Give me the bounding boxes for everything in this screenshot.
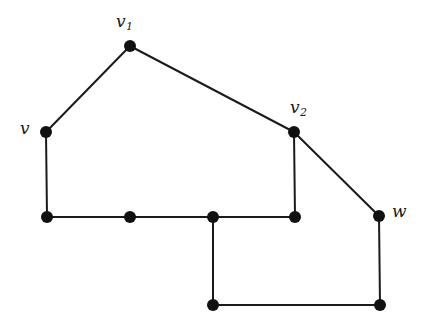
vertex-label-subscript: 2 <box>300 106 307 119</box>
graph-edge <box>130 46 294 132</box>
vertex-label-base: v <box>116 11 126 31</box>
vertex-label-w: w <box>392 203 407 220</box>
graph-edge <box>294 132 379 216</box>
graph-vertex <box>41 211 53 223</box>
graph-vertex <box>207 211 219 223</box>
graph-vertex <box>124 211 136 223</box>
graph-vertex <box>289 211 301 223</box>
vertex-label-v1: v1 <box>116 13 133 30</box>
graph-vertex <box>40 126 52 138</box>
vertex-label-base: v <box>290 97 300 117</box>
graph-vertex <box>374 299 386 311</box>
graph-canvas <box>0 0 427 327</box>
graph-vertex <box>124 40 136 52</box>
graph-edge <box>294 132 295 217</box>
vertex-label-v: v <box>20 120 30 137</box>
graph-figure: v1vv2w <box>0 0 427 327</box>
graph-vertex <box>207 299 219 311</box>
edge-layer <box>46 46 380 305</box>
graph-vertex <box>288 126 300 138</box>
graph-vertex <box>373 210 385 222</box>
graph-edge <box>379 216 380 305</box>
vertex-label-base: v <box>20 118 30 138</box>
graph-edge <box>46 132 47 217</box>
vertex-label-subscript: 1 <box>126 20 133 33</box>
vertex-label-v2: v2 <box>290 99 307 116</box>
graph-edge <box>46 46 130 132</box>
vertex-label-base: w <box>392 201 407 221</box>
